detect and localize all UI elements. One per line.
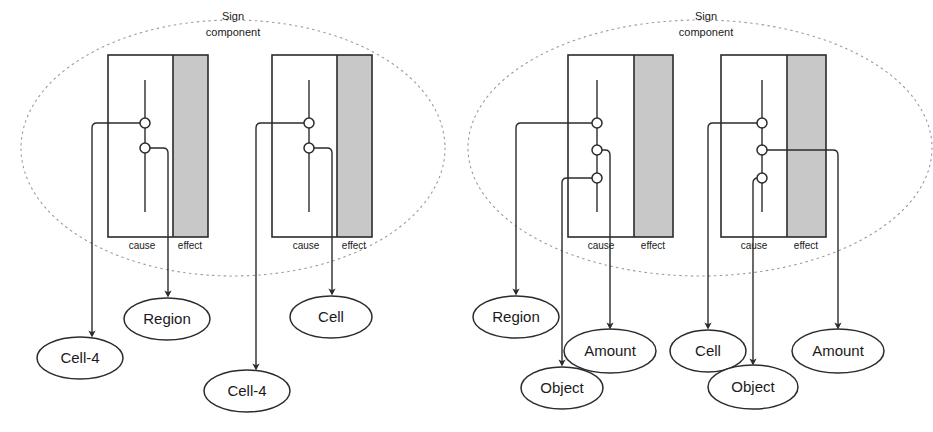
- node-label: Object: [540, 379, 584, 396]
- effect-band: [173, 55, 208, 237]
- port-circle[interactable]: [592, 118, 602, 128]
- effect-band: [787, 55, 826, 237]
- effect-band: [634, 55, 673, 237]
- sign-component-boundary: [468, 20, 932, 276]
- right-component-2: cause effect: [721, 55, 826, 251]
- node-label: Object: [731, 378, 775, 395]
- left-component-2: cause effect: [272, 55, 372, 251]
- node-cell-4-a[interactable]: Cell-4: [37, 337, 123, 379]
- diagram-canvas: Sign component cause effect cause effect: [0, 0, 933, 432]
- node-cell-4-b[interactable]: Cell-4: [204, 370, 290, 412]
- port-circle[interactable]: [140, 143, 150, 153]
- port-circle[interactable]: [757, 173, 767, 183]
- node-cell[interactable]: Cell: [290, 296, 372, 338]
- edge-r2p3-to-object: [753, 178, 762, 362]
- node-label: Amount: [812, 342, 865, 359]
- node-region[interactable]: Region: [124, 298, 210, 340]
- node-label: Region: [143, 310, 191, 327]
- node-object-b[interactable]: Object: [708, 365, 798, 409]
- node-amount-b[interactable]: Amount: [792, 329, 884, 373]
- cause-label: cause: [741, 240, 768, 251]
- edge-r1p1-to-region: [516, 123, 597, 292]
- cause-label: cause: [588, 240, 615, 251]
- right-group-title-line1: Sign: [695, 10, 717, 22]
- edge-c1p1-to-cell4a: [92, 123, 145, 334]
- node-region-r[interactable]: Region: [473, 296, 559, 338]
- node-label: Cell: [318, 308, 344, 325]
- node-cell-r[interactable]: Cell: [670, 330, 746, 372]
- node-label: Cell-4: [227, 382, 266, 399]
- node-label: Cell: [695, 342, 721, 359]
- sign-component-boundary: [21, 20, 445, 276]
- port-circle[interactable]: [592, 173, 602, 183]
- left-group: Sign component cause effect cause effect: [21, 10, 445, 412]
- sign-component-diagram: Sign component cause effect cause effect: [0, 0, 933, 432]
- port-circle[interactable]: [757, 145, 767, 155]
- port-circle[interactable]: [304, 143, 314, 153]
- port-circle[interactable]: [304, 118, 314, 128]
- edge-c2p2-to-cell: [309, 148, 332, 292]
- left-component-1: cause effect: [108, 55, 208, 251]
- right-component-1: cause effect: [568, 55, 673, 251]
- right-group: Sign component cause effect cause effect: [468, 10, 932, 409]
- node-label: Region: [492, 308, 540, 325]
- effect-label: effect: [794, 240, 818, 251]
- port-circle[interactable]: [757, 118, 767, 128]
- effect-label: effect: [178, 240, 202, 251]
- node-object-a[interactable]: Object: [521, 367, 603, 409]
- cause-label: cause: [293, 240, 320, 251]
- node-amount-a[interactable]: Amount: [564, 329, 656, 373]
- effect-band: [337, 55, 372, 237]
- cause-label: cause: [129, 240, 156, 251]
- edge-r2p1-to-cell: [708, 123, 762, 326]
- node-label: Cell-4: [60, 349, 99, 366]
- left-group-title-line2: component: [206, 26, 260, 38]
- port-circle[interactable]: [140, 118, 150, 128]
- node-label: Amount: [584, 342, 637, 359]
- port-circle[interactable]: [592, 145, 602, 155]
- left-group-title-line1: Sign: [222, 10, 244, 22]
- right-group-title-line2: component: [679, 26, 733, 38]
- effect-label: effect: [342, 240, 366, 251]
- effect-label: effect: [641, 240, 665, 251]
- edge-c1p2-to-region: [145, 148, 168, 294]
